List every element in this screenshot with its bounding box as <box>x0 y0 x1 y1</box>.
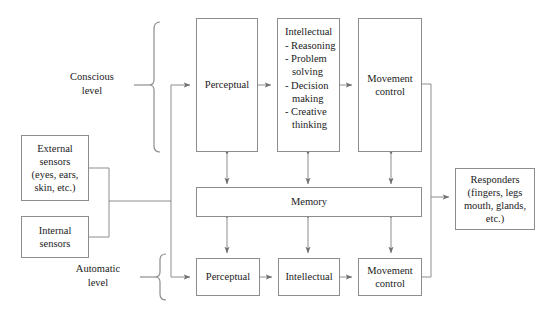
conscious-intellectual-box[interactable]: Intellectual - Reasoning - Problem solvi… <box>277 18 340 152</box>
conscious-perceptual-box[interactable]: Perceptual <box>196 18 258 152</box>
internal-sensors-box[interactable]: Internal sensors <box>21 216 89 258</box>
intellectual-item-0: - Reasoning <box>285 39 334 52</box>
automatic-perceptual-label: Perceptual <box>206 270 250 283</box>
automatic-level-brace <box>155 254 166 300</box>
conscious-level-label-line1: Conscious <box>55 70 129 84</box>
memory-box[interactable]: Memory <box>196 187 422 217</box>
intellectual-item-3: - Decision <box>285 79 334 92</box>
external-sensors-line2: sensors <box>40 155 71 168</box>
conscious-perceptual-label: Perceptual <box>205 78 249 91</box>
external-sensors-line1: External <box>37 142 73 155</box>
intellectual-item-4: making <box>285 92 334 105</box>
responders-line3: mouth, glands, <box>464 199 526 212</box>
sensor-merge-bracket <box>89 168 109 237</box>
conscious-level-brace <box>149 22 160 152</box>
responders-line4: etc.) <box>486 212 504 225</box>
responders-box[interactable]: Responders (fingers, legs mouth, glands,… <box>455 168 535 230</box>
responders-line2: (fingers, legs <box>468 186 523 199</box>
external-sensors-line4: skin, etc.) <box>34 181 75 194</box>
responders-line1: Responders <box>471 173 520 186</box>
intellectual-item-6: thinking <box>285 118 334 131</box>
conscious-intellectual-title: Intellectual <box>285 25 334 38</box>
line-conscious-movement-output <box>422 84 431 197</box>
line-automatic-movement-output <box>422 197 431 277</box>
memory-label: Memory <box>291 195 327 208</box>
automatic-level-label-line2: level <box>61 276 135 290</box>
external-sensors-line3: (eyes, ears, <box>32 168 79 181</box>
automatic-movement-line2: control <box>375 277 405 290</box>
automatic-perceptual-box[interactable]: Perceptual <box>196 258 260 296</box>
automatic-intellectual-label: Intellectual <box>285 270 332 283</box>
intellectual-item-2: solving <box>285 65 334 78</box>
intellectual-item-5: - Creative <box>285 105 334 118</box>
conscious-movement-control-box[interactable]: Movement control <box>358 18 422 152</box>
conscious-movement-line2: control <box>375 85 405 98</box>
automatic-level-label: Automatic level <box>61 262 135 289</box>
internal-sensors-line2: sensors <box>40 237 71 250</box>
automatic-level-label-line1: Automatic <box>61 262 135 276</box>
diagram-canvas: Conscious level Automatic level External… <box>0 0 555 310</box>
internal-sensors-line1: Internal <box>39 224 72 237</box>
conscious-level-label: Conscious level <box>55 70 129 97</box>
intellectual-item-1: - Problem <box>285 52 334 65</box>
automatic-movement-line1: Movement <box>367 264 413 277</box>
conscious-movement-line1: Movement <box>367 72 413 85</box>
automatic-intellectual-box[interactable]: Intellectual <box>278 258 340 296</box>
conscious-level-label-line2: level <box>55 84 129 98</box>
automatic-movement-control-box[interactable]: Movement control <box>358 258 422 296</box>
external-sensors-box[interactable]: External sensors (eyes, ears, skin, etc.… <box>21 135 89 201</box>
conscious-intellectual-list: - Reasoning - Problem solving - Decision… <box>285 39 334 131</box>
